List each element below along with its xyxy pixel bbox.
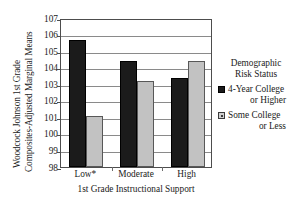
- legend-item-label-line-1: 4-Year College: [228, 84, 294, 95]
- x-axis-tick-label: Moderate: [118, 170, 154, 179]
- bar: [69, 40, 86, 167]
- bar: [171, 78, 188, 167]
- y-axis-tick: [57, 69, 61, 70]
- legend-swatch-icon: [218, 86, 225, 93]
- y-axis-title-line-2: Composites-Adjusted Marginal Means: [25, 31, 34, 172]
- bar: [86, 116, 103, 167]
- y-axis-tick-label: 105: [44, 48, 58, 57]
- y-axis-tick: [57, 53, 61, 54]
- legend-item[interactable]: Some Collegeor Less: [218, 110, 294, 132]
- y-axis-tick: [57, 86, 61, 87]
- legend-item-label-line-1: Some College: [228, 110, 294, 121]
- y-axis-tick: [57, 152, 61, 153]
- legend-item-label-line-2: or Higher: [228, 95, 294, 106]
- x-axis-tick-labels: Low*ModerateHigh: [60, 170, 212, 184]
- y-axis-tick-label: 106: [44, 31, 58, 40]
- legend: Demographic Risk Status 4-Year Collegeor…: [218, 58, 294, 132]
- gridline: [61, 36, 211, 37]
- legend-swatch-icon: [218, 112, 225, 119]
- legend-item-label-line-2: or Less: [228, 121, 294, 132]
- y-axis-tick: [57, 119, 61, 120]
- y-axis-tick-label: 107: [44, 15, 58, 24]
- y-axis-tick-label: 101: [44, 114, 58, 123]
- x-axis-title: 1st Grade Instructional Support: [60, 185, 212, 194]
- legend-title-line-2: Risk Status: [218, 69, 294, 80]
- y-axis-tick: [57, 102, 61, 103]
- bar: [137, 81, 154, 167]
- y-axis-tick: [57, 135, 61, 136]
- x-axis-tick-label: High: [177, 170, 196, 179]
- x-axis-tick-label: Low*: [74, 170, 96, 179]
- bar-chart-figure: Woodcock Johnson 1st Grade Composites-Ad…: [0, 0, 294, 207]
- bar: [120, 61, 137, 167]
- y-axis-tick-label: 104: [44, 64, 58, 73]
- y-axis-tick-label: 102: [44, 97, 58, 106]
- legend-item[interactable]: 4-Year Collegeor Higher: [218, 84, 294, 106]
- y-axis-tick: [57, 20, 61, 21]
- y-axis-tick: [57, 36, 61, 37]
- y-axis-title-line-1: Woodcock Johnson 1st Grade: [13, 60, 22, 168]
- y-axis-tick-labels: 9899100101102103104105106107: [36, 14, 58, 174]
- y-axis-tick-label: 100: [44, 130, 58, 139]
- y-axis-tick-label: 103: [44, 81, 58, 90]
- legend-title-line-1: Demographic: [218, 58, 294, 69]
- plot-area: [60, 19, 212, 168]
- legend-entries: 4-Year Collegeor HigherSome Collegeor Le…: [218, 84, 294, 132]
- bar: [188, 61, 205, 167]
